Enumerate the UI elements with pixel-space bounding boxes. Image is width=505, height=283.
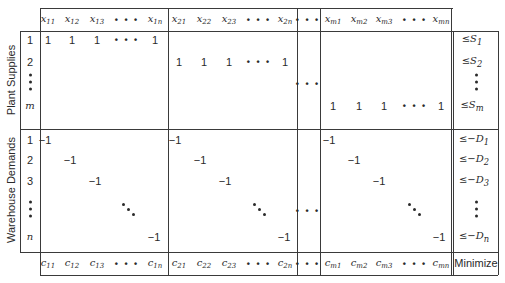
rhs-supply-1: ≤S1 — [462, 33, 483, 48]
demand-coef-g1: −1 — [89, 175, 102, 187]
rhs-demand-ellipsis — [474, 201, 478, 222]
col-divider-3 — [320, 8, 321, 275]
rhs-divider-a — [451, 8, 452, 275]
demand-row-label-n: n — [27, 231, 33, 243]
header-var-21: x21 — [172, 13, 187, 28]
demand-coef-g3: −1 — [348, 154, 361, 166]
supply-coef-row-1: 1 — [152, 34, 158, 46]
header-var-1n: x1n — [148, 13, 163, 28]
supply-coef-row-1: 1 — [45, 34, 51, 46]
demand-middle-ellipsis: • • • — [296, 205, 320, 217]
demand-coef-g3: −1 — [323, 134, 336, 146]
header-var-mn: xmn — [433, 13, 450, 28]
rhs-supply-ellipsis — [474, 74, 478, 95]
supply-row-label-1: 1 — [27, 34, 33, 46]
cost-bottom-border — [40, 275, 498, 276]
demand-bottom-border — [20, 252, 498, 253]
supply-coef-row-m: 1 — [381, 100, 387, 112]
supply-coef-row-1: • • • — [115, 34, 139, 46]
cost-1n: c1n — [148, 257, 163, 272]
header-ellipsis: • • • — [115, 14, 139, 26]
rhs-right-border — [498, 31, 499, 275]
supply-coef-row-2: 1 — [201, 56, 207, 68]
cost-ellipsis: • • • — [115, 258, 139, 270]
cost-m3: cm3 — [376, 257, 393, 272]
rhs-supply-m: ≤Sm — [460, 99, 483, 114]
header-var-m3: xm3 — [376, 13, 393, 28]
supply-row-label-ellipsis — [28, 74, 32, 95]
objective-label: Minimize — [454, 257, 497, 269]
rhs-demand-n: ≤−Dn — [459, 230, 489, 245]
cost-ellipsis: • • • — [403, 258, 427, 270]
cost-22: c22 — [197, 257, 212, 272]
supply-coef-row-m: 1 — [356, 100, 362, 112]
header-var-13: x13 — [90, 13, 105, 28]
header-top-border — [40, 8, 453, 9]
supply-demand-divider — [20, 129, 498, 130]
demand-coef-g1: −1 — [39, 134, 52, 146]
demand-coef-g3: −1 — [373, 175, 386, 187]
supply-coef-row-2: 1 — [176, 56, 182, 68]
header-var-2n: x2n — [278, 13, 293, 28]
side-label-warehouse-demands: Warehouse Demands — [5, 137, 17, 243]
rhs-demand-1: ≤−D1 — [459, 133, 489, 148]
header-var-22: x22 — [197, 13, 212, 28]
rhs-supply-2: ≤S2 — [462, 55, 483, 70]
demand-coef-g1: −1 — [148, 231, 161, 243]
demand-diagonal-ellipsis-g2 — [253, 203, 279, 221]
demand-coef-g2: −1 — [219, 175, 232, 187]
supply-coef-row-2: 1 — [226, 56, 232, 68]
cost-2n: c2n — [278, 257, 293, 272]
demand-coef-g2: −1 — [169, 134, 182, 146]
header-bottom-border — [20, 31, 498, 32]
side-label-plant-supplies: Plant Supplies — [5, 45, 17, 115]
header-var-m2: xm2 — [351, 13, 368, 28]
demand-coef-g2: −1 — [278, 231, 291, 243]
supply-coef-row-m: • • • — [403, 100, 427, 112]
cost-ellipsis: • • • — [247, 258, 271, 270]
cost-11: c11 — [41, 257, 56, 272]
supply-coef-row-m: 1 — [438, 100, 444, 112]
rhs-divider-b — [453, 31, 454, 275]
header-ellipsis: • • • — [403, 14, 427, 26]
cost-mn: cmn — [433, 257, 450, 272]
supply-coef-row-1: 1 — [69, 34, 75, 46]
col-divider-2 — [297, 8, 298, 275]
supply-coef-row-2: • • • — [247, 56, 271, 68]
demand-row-label-2: 2 — [27, 154, 33, 166]
demand-diagonal-ellipsis-g3 — [408, 203, 434, 221]
demand-coef-g2: −1 — [194, 154, 207, 166]
supply-row-label-m: m — [25, 100, 34, 112]
header-var-23: x23 — [222, 13, 237, 28]
left-label-border — [20, 31, 21, 252]
supply-coef-row-1: 1 — [94, 34, 100, 46]
header-var-12: x12 — [65, 13, 80, 28]
supply-middle-ellipsis: • • • — [296, 78, 320, 90]
header-var-11: x11 — [41, 13, 56, 28]
cost-m1: cm1 — [325, 257, 342, 272]
demand-diagonal-ellipsis-g1 — [122, 203, 148, 221]
header-var-m1: xm1 — [325, 13, 342, 28]
cost-m2: cm2 — [351, 257, 368, 272]
demand-row-label-ellipsis — [28, 201, 32, 222]
demand-coef-g1: −1 — [64, 154, 77, 166]
rhs-demand-2: ≤−D2 — [459, 153, 489, 168]
header-ellipsis: • • • — [247, 14, 271, 26]
supply-coef-row-m: 1 — [330, 100, 336, 112]
cost-middle-ellipsis: • • • — [296, 258, 320, 270]
demand-row-label-1: 1 — [27, 134, 33, 146]
supply-row-label-2: 2 — [27, 56, 33, 68]
demand-coef-g3: −1 — [433, 231, 446, 243]
cost-23: c23 — [222, 257, 237, 272]
cost-13: c13 — [90, 257, 105, 272]
supply-coef-row-2: 1 — [282, 56, 288, 68]
header-middle-ellipsis: • • • — [296, 14, 320, 26]
cost-12: c12 — [65, 257, 80, 272]
cost-21: c21 — [172, 257, 187, 272]
rhs-demand-3: ≤−D3 — [459, 174, 489, 189]
demand-row-label-3: 3 — [27, 175, 33, 187]
